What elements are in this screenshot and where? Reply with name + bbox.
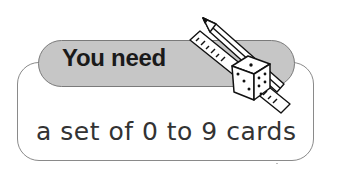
heading-label: You need [62,44,166,72]
you-need-content: a set of 0 to 9 cards [36,117,297,146]
pencil-ruler-dice-icon [186,14,298,114]
speck [276,163,278,164]
